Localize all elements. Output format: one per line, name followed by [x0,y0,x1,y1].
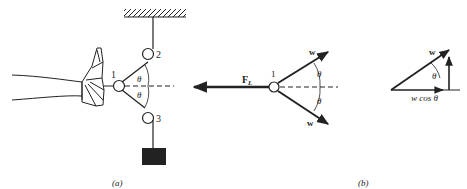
traction-diagram: 1 2 3 θ θ (a) FL 1 w w [0,0,467,189]
panel-a-caption: (a) [112,178,123,188]
angle-theta-lower-a: θ [137,90,142,100]
pulley-1-label: 1 [111,69,116,80]
hypotenuse-w-arrow [391,50,449,90]
force-fl-label: FL [242,74,252,87]
node-1 [269,82,279,92]
angle-theta-upper-a: θ [137,74,142,84]
panel-b-caption: (b) [358,178,369,188]
pulley-3-label: 3 [156,113,161,124]
angle-theta-upper-b: θ [317,69,322,79]
tension-lower-label: w [307,118,314,128]
leg-with-cast [12,48,114,106]
vector-triangle: w θ w cos θ [391,47,460,103]
hanging-weight [142,148,166,165]
panel-b-free-body: FL 1 w w θ θ (b) [194,47,369,188]
pulley-2 [143,49,154,60]
node-1-label: 1 [271,69,276,79]
ceiling-support [124,9,186,17]
tension-upper-label: w [309,47,316,57]
triangle-w-label: w [429,47,436,57]
pulley-3 [143,113,154,124]
pulley-2-label: 2 [156,49,161,60]
angle-theta-lower-b: θ [317,96,322,106]
w-cos-theta-label: w cos θ [411,93,439,103]
panel-a: 1 2 3 θ θ (a) [12,9,186,188]
triangle-theta-label: θ [432,71,437,81]
